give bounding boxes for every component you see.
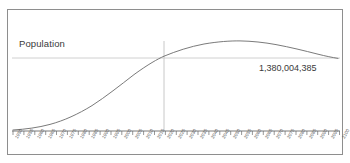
- population-curve: [13, 41, 338, 130]
- plot-area: 1950 1955 1960 1965 1970 1975 1980 1985 …: [8, 10, 344, 156]
- population-value-label: 1,380,004,385: [259, 63, 317, 73]
- series-name-label: Population: [19, 38, 65, 49]
- x-axis-ticks: [13, 131, 340, 135]
- chart-frame: 1950 1955 1960 1965 1970 1975 1980 1985 …: [7, 9, 343, 155]
- population-line-chart: [8, 10, 344, 156]
